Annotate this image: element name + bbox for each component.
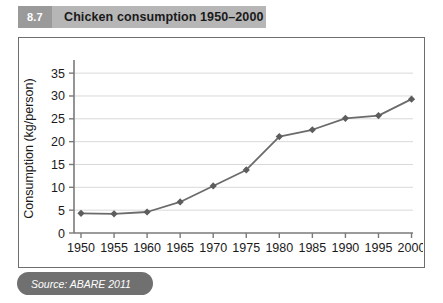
data-point[interactable] (408, 96, 415, 103)
data-point[interactable] (77, 210, 84, 217)
x-tick-label: 1960 (133, 241, 161, 255)
source-pill: Source: ABARE 2011 (17, 272, 153, 295)
data-point[interactable] (144, 208, 151, 215)
x-tick-label: 1985 (298, 241, 326, 255)
axes (74, 60, 413, 233)
data-line (81, 99, 412, 214)
y-axis-ticks: 05101520253035 (51, 67, 74, 241)
x-tick-label: 1970 (199, 241, 227, 255)
data-point[interactable] (309, 126, 316, 133)
figure-title: Chicken consumption 1950–2000 (64, 10, 264, 24)
x-tick-label: 1950 (67, 241, 95, 255)
x-tick-label: 1965 (166, 241, 194, 255)
data-point[interactable] (210, 182, 217, 189)
y-tick-label: 5 (58, 204, 65, 218)
y-tick-label: 25 (51, 112, 65, 126)
y-tick-label: 20 (51, 135, 65, 149)
y-axis-title: Consumption (kg/person) (22, 78, 36, 218)
x-axis-ticks: 1950195519601965197019751980198519901995… (67, 233, 423, 255)
data-point[interactable] (342, 115, 349, 122)
x-tick-label: 1990 (332, 241, 360, 255)
x-tick-label: 1980 (265, 241, 293, 255)
figure-title-bar: 8.7 Chicken consumption 1950–2000 (18, 6, 266, 28)
y-tick-label: 10 (51, 181, 65, 195)
x-tick-label: 1995 (365, 241, 393, 255)
gridlines (74, 73, 413, 210)
y-tick-label: 15 (51, 158, 65, 172)
source-label: Source: ABARE 2011 (31, 278, 131, 290)
figure-number-badge: 8.7 (18, 6, 52, 28)
data-point[interactable] (110, 210, 117, 217)
y-tick-label: 0 (58, 227, 65, 241)
data-markers (77, 96, 415, 218)
y-tick-label: 35 (51, 67, 65, 81)
y-tick-label: 30 (51, 89, 65, 103)
data-point[interactable] (375, 112, 382, 119)
x-tick-label: 2000 (398, 241, 423, 255)
x-tick-label: 1955 (100, 241, 128, 255)
chart-frame: 05101520253035Consumption (kg/person)195… (18, 37, 425, 268)
line-chart: 05101520253035Consumption (kg/person)195… (19, 38, 423, 266)
x-tick-label: 1975 (232, 241, 260, 255)
data-point[interactable] (177, 198, 184, 205)
